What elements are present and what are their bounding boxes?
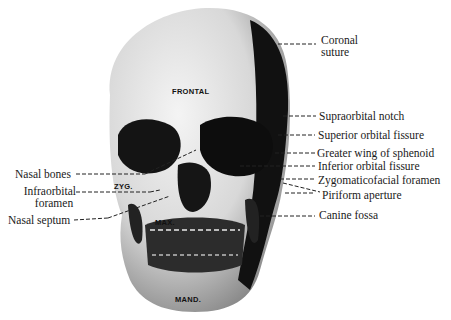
label-superior-orbital-fissure: Superior orbital fissure bbox=[318, 129, 424, 141]
label-line: Infraorbital bbox=[20, 185, 76, 197]
label-inferior-orbital-fissure: Inferior orbital fissure bbox=[318, 160, 420, 172]
label-canine-fossa: Canine fossa bbox=[319, 209, 378, 221]
label-zygomaticofacial-foramen: Zygomaticofacial foramen bbox=[318, 174, 440, 186]
bone-label-maxilla: MAX. bbox=[155, 218, 175, 227]
label-nasal-septum: Nasal septum bbox=[8, 214, 70, 226]
bone-label-mandible: MAND. bbox=[175, 295, 201, 304]
label-nasal-bones: Nasal bones bbox=[15, 168, 71, 180]
label-coronal-suture: Coronal suture bbox=[321, 34, 358, 58]
bone-label-zygomatic: ZYG. bbox=[114, 182, 133, 191]
bone-label-frontal: FRONTAL bbox=[172, 87, 209, 96]
label-line: suture bbox=[321, 46, 358, 58]
label-line: foramen bbox=[20, 197, 76, 209]
label-infraorbital-foramen: Infraorbital foramen bbox=[20, 185, 76, 209]
skull-diagram: FRONTAL ZYG. MAX. MAND. Coronal suture S… bbox=[0, 0, 451, 320]
label-greater-wing-of-sphenoid: Greater wing of sphenoid bbox=[317, 147, 434, 159]
label-line: Coronal bbox=[321, 34, 358, 46]
label-piriform-aperture: Piriform aperture bbox=[322, 189, 402, 201]
label-supraorbital-notch: Supraorbital notch bbox=[319, 110, 404, 122]
